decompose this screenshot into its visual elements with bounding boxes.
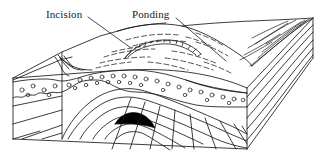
left-block-strata	[13, 96, 62, 139]
incision-label: Incision	[46, 8, 82, 20]
geology-block-diagram-figure: Incision Ponding	[0, 0, 321, 151]
incision-leader-line	[88, 17, 131, 48]
block-diagram-canvas	[0, 0, 321, 151]
incision-notch	[60, 56, 92, 70]
ponding-label: Ponding	[132, 8, 169, 20]
ponding-hachure-band	[125, 40, 201, 58]
anticline-fold-layers	[62, 89, 247, 150]
top-surface-contours	[96, 33, 231, 73]
gravel-clasts	[20, 74, 245, 105]
